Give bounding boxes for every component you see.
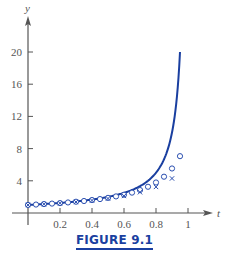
- cross-marker: [170, 176, 174, 180]
- x-tick-label: 0.4: [85, 218, 99, 230]
- circle-marker: [97, 196, 102, 201]
- y-axis-label: y: [24, 2, 30, 14]
- figure-caption: FIGURE 9.1: [0, 233, 229, 250]
- circle-marker: [169, 166, 174, 171]
- figure-caption-text: FIGURE 9.1: [76, 233, 153, 250]
- x-tick-label: 0.6: [117, 218, 131, 230]
- circle-marker: [177, 154, 182, 159]
- circle-marker: [49, 201, 54, 206]
- y-tick-label: 8: [17, 143, 23, 155]
- plot-area: [25, 52, 182, 208]
- circle-marker: [145, 184, 150, 189]
- x-tick-label: 1: [185, 218, 191, 230]
- x-axis-label: t: [217, 207, 221, 219]
- circle-marker: [113, 194, 118, 199]
- x-tick-label: 0.8: [149, 218, 163, 230]
- circle-marker: [129, 190, 134, 195]
- circle-marker: [153, 180, 158, 185]
- x-tick-label: 0.2: [53, 218, 67, 230]
- y-tick-label: 4: [17, 175, 23, 187]
- y-tick-label: 16: [11, 78, 23, 90]
- circle-marker: [33, 202, 38, 207]
- y-tick-label: 12: [11, 110, 22, 122]
- circle-marker: [65, 200, 70, 205]
- circle-marker: [161, 174, 166, 179]
- circle-marker: [81, 198, 86, 203]
- y-tick-label: 20: [11, 46, 23, 58]
- chart: ty0.20.40.60.8148121620: [0, 0, 229, 263]
